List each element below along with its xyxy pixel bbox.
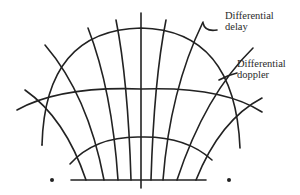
differential-delay-label: Differentialdelay [225,10,274,32]
receiver-dot-left [50,178,54,182]
doppler-contour-l1 [116,20,131,180]
doppler-contour-l4 [25,90,86,180]
doppler-contour-l2 [88,28,118,180]
receiver-dot-right [227,178,231,182]
doppler-contour-l-extra [61,88,70,164]
delay-leader-line [203,23,217,30]
doppler-leader-line [219,73,237,80]
delay-contour-middle [17,89,262,112]
differential-doppler-label: Differentialdoppler [237,58,286,80]
doppler-contour-r1 [151,20,166,180]
